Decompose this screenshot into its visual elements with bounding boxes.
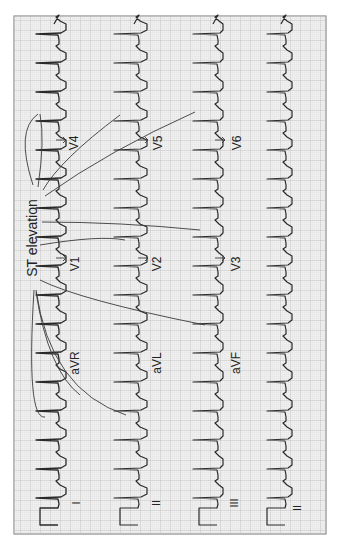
lead-label-V5: V5 — [151, 135, 165, 150]
lead-label-II: II — [150, 500, 162, 506]
lead-label-V2: V2 — [150, 256, 164, 271]
lead-label-I: I — [70, 501, 82, 504]
lead-label-V3: V3 — [229, 256, 243, 271]
lead-label-V1: V1 — [68, 256, 82, 271]
lead-label-aVL: aVL — [150, 352, 164, 374]
lead-label-V4: V4 — [67, 135, 81, 150]
ecg-figure: I II III II aVR aVL aVF V1 V2 V3 V4 V5 V… — [0, 0, 341, 550]
st-elevation-label: ST elevation — [24, 199, 40, 277]
lead-label-aVF: aVF — [229, 352, 243, 374]
lead-label-III: III — [228, 498, 240, 507]
lead-label-II-rhythm: II — [291, 505, 303, 511]
lead-label-aVR: aVR — [68, 351, 82, 375]
lead-label-V6: V6 — [230, 135, 244, 150]
